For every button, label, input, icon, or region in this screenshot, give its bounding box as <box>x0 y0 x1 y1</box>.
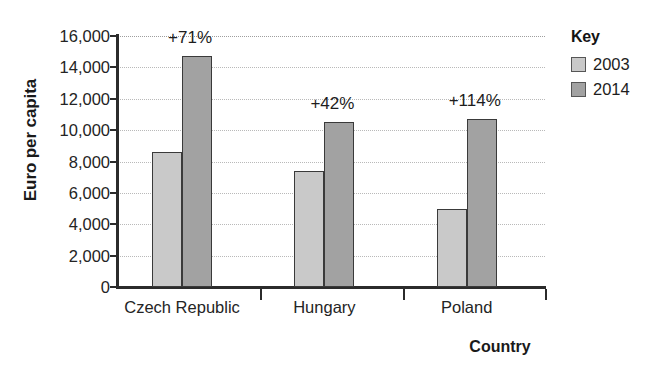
plot-area: +71%+42%+114% <box>118 36 545 287</box>
y-axis-tick-label: 8,000 <box>28 152 110 171</box>
bar-chart-figure: Euro per capita 16,00014,00012,00010,000… <box>0 0 656 373</box>
y-axis-tick-label: 14,000 <box>28 58 110 77</box>
y-axis-tick-mark <box>110 66 119 68</box>
y-axis-tick-label: 10,000 <box>28 121 110 140</box>
legend-title: Key <box>571 28 656 46</box>
growth-annotation: +71% <box>168 28 212 48</box>
legend-swatch-icon <box>571 57 586 72</box>
y-axis-tick-labels: 16,00014,00012,00010,0008,0006,0004,0002… <box>22 36 110 287</box>
legend-entries: 20032014 <box>571 55 656 99</box>
x-axis-title: Country <box>440 338 560 356</box>
legend-entry: 2003 <box>571 55 656 74</box>
chart-legend: Key 20032014 <box>571 28 656 105</box>
y-axis-tick-label: 12,000 <box>28 89 110 108</box>
x-axis-category-label: Czech Republic <box>124 298 240 317</box>
x-axis-tick-mark <box>545 289 547 300</box>
y-axis-tick-label: 2,000 <box>28 246 110 265</box>
y-axis-tick-mark <box>110 35 119 37</box>
growth-annotation: +42% <box>310 94 354 114</box>
y-axis-tick-label: 16,000 <box>28 27 110 46</box>
bar <box>324 122 354 287</box>
y-axis-tick-mark <box>110 223 119 225</box>
y-axis-tick-mark <box>110 98 119 100</box>
bar <box>182 56 212 287</box>
y-axis-tick-mark <box>110 129 119 131</box>
bar <box>467 119 497 287</box>
y-axis-tick-mark <box>110 161 119 163</box>
legend-entry-label: 2014 <box>593 80 630 99</box>
legend-entry-label: 2003 <box>593 55 630 74</box>
bar <box>437 209 467 287</box>
y-axis-tick-label: 4,000 <box>28 215 110 234</box>
x-axis-category-label: Hungary <box>293 298 355 317</box>
bar <box>294 171 324 287</box>
bar <box>152 152 182 287</box>
growth-annotation: +114% <box>449 91 501 111</box>
legend-swatch-icon <box>571 82 586 97</box>
y-axis-tick-label: 0 <box>28 278 110 297</box>
x-axis-tick-mark <box>403 289 405 300</box>
legend-entry: 2014 <box>571 80 656 99</box>
x-axis-tick-mark <box>260 289 262 300</box>
x-axis-category-label: Poland <box>441 298 492 317</box>
y-axis-tick-mark <box>110 286 119 288</box>
y-axis-tick-mark <box>110 255 119 257</box>
y-axis-tick-label: 6,000 <box>28 183 110 202</box>
y-axis-tick-mark <box>110 192 119 194</box>
